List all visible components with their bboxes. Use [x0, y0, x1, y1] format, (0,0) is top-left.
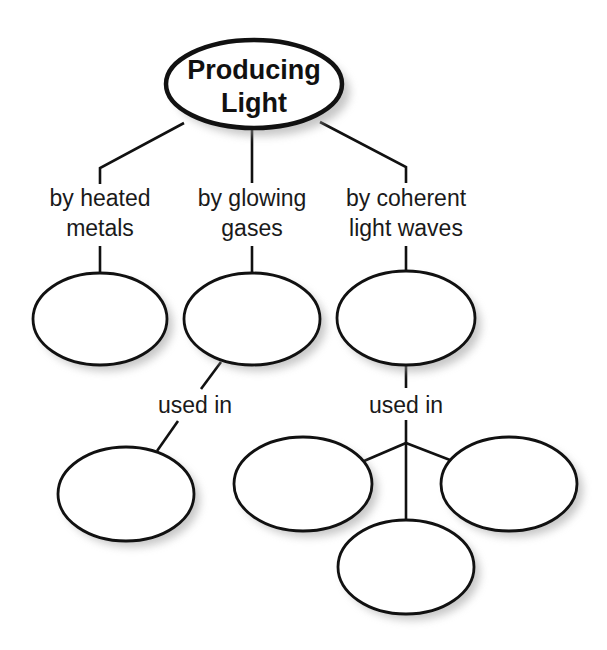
answer-ellipse[interactable] — [337, 271, 475, 365]
answer-ellipse[interactable] — [184, 273, 320, 365]
branch-label-glowing-gases: by glowing gases — [198, 185, 307, 241]
answer-node-coherent-use-1[interactable] — [234, 437, 378, 537]
answer-node-gases-use-1[interactable] — [58, 447, 200, 547]
connector-junction-to-left-child — [364, 443, 406, 461]
answer-node-coherent-use-2[interactable] — [441, 437, 583, 537]
connector-root-to-heated-metals — [100, 123, 184, 184]
branch-label-line1: by heated — [49, 185, 150, 211]
branch-label-line2: light waves — [349, 215, 463, 241]
branch-label-line1: by glowing — [198, 185, 307, 211]
root-label-line1: Producing — [187, 55, 321, 85]
branch-label-heated-metals: by heated metals — [49, 185, 150, 241]
branch-label-line2: gases — [221, 215, 282, 241]
answer-ellipse[interactable] — [234, 437, 372, 531]
answer-node-coherent-light[interactable] — [337, 271, 481, 372]
connector-gases-ellipse-to-used-in — [201, 362, 221, 389]
connector-used-in-to-gases-child — [157, 421, 178, 451]
root-label-line2: Light — [221, 88, 287, 118]
connector-junction-to-right-child — [406, 443, 450, 460]
answer-ellipse[interactable] — [338, 520, 474, 614]
connector-root-to-coherent-light — [320, 122, 406, 183]
answer-ellipse[interactable] — [441, 437, 577, 531]
concept-map-diagram: Producing Light by heated metals by glow… — [0, 0, 607, 650]
link-label-gases-used-in: used in — [158, 392, 232, 418]
branch-label-coherent-light: by coherent light waves — [346, 185, 467, 241]
root-node: Producing Light — [166, 40, 350, 136]
answer-node-heated-metals[interactable] — [33, 273, 173, 371]
branch-label-line2: metals — [66, 215, 134, 241]
answer-ellipse[interactable] — [58, 447, 194, 541]
answer-node-coherent-use-3[interactable] — [338, 520, 480, 620]
link-label-coherent-used-in: used in — [369, 392, 443, 418]
answer-ellipse[interactable] — [33, 273, 167, 365]
answer-node-glowing-gases[interactable] — [184, 273, 326, 371]
branch-label-line1: by coherent — [346, 185, 467, 211]
